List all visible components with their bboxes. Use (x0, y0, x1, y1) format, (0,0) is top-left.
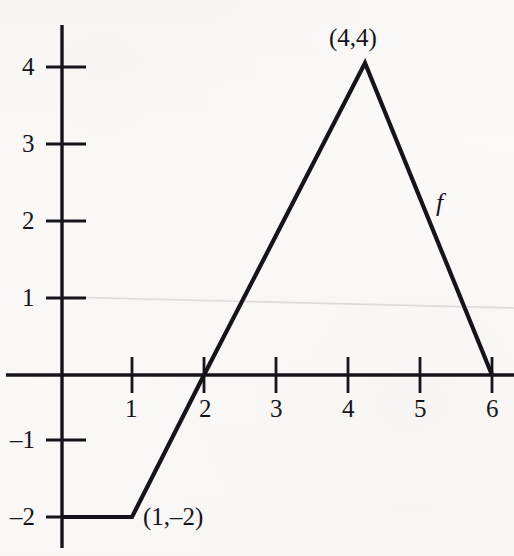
curve-label-f: f (436, 190, 443, 216)
x-tick-label-4: 4 (342, 396, 355, 421)
x-tick-label-2: 2 (199, 396, 212, 421)
y-tick-label-3: 3 (22, 131, 35, 156)
scan-artifact-line (62, 297, 514, 308)
x-tick-label-3: 3 (270, 396, 283, 421)
peak-point-label: (4,4) (329, 25, 377, 50)
x-tick-label-1: 1 (125, 396, 138, 421)
x-tick-label-6: 6 (486, 396, 499, 421)
y-tick-label-1: 1 (22, 285, 35, 310)
y-tick-label-4: 4 (22, 54, 35, 79)
function-curve-f (62, 63, 492, 517)
y-axis-ticks (46, 67, 86, 517)
function-graph-figure: 4 3 2 1 –1 –2 1 2 3 4 5 6 (4,4) (1,–2) f (0, 0, 514, 556)
y-tick-label-2: 2 (22, 208, 35, 233)
y-tick-label-neg1: –1 (10, 427, 35, 452)
plot-canvas (0, 0, 514, 556)
y-tick-label-neg2: –2 (10, 504, 35, 529)
corner-point-label: (1,–2) (143, 504, 203, 529)
x-tick-label-5: 5 (414, 396, 427, 421)
